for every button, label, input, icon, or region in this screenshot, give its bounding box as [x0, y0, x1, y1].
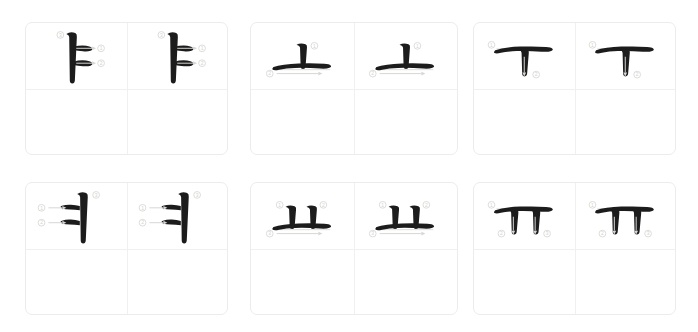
svg-text:2: 2 — [100, 61, 103, 66]
svg-text:1: 1 — [100, 46, 103, 51]
jamo-card-o[interactable]: 1 2 1 2 — [250, 22, 458, 155]
svg-text:1: 1 — [591, 43, 594, 48]
svg-text:1: 1 — [278, 203, 281, 208]
jamo-card-ya[interactable]: 1 2 3 1 2 — [25, 22, 228, 155]
jamo-card-yo[interactable]: 1 2 3 1 2 3 — [250, 182, 458, 315]
svg-text:1: 1 — [141, 206, 144, 211]
svg-text:1: 1 — [490, 43, 493, 48]
svg-text:2: 2 — [200, 61, 203, 66]
card-grid-horizontal-line — [26, 89, 227, 90]
jamo-cell-yeo-2[interactable]: 1 2 3 — [127, 183, 228, 249]
svg-text:1: 1 — [416, 44, 419, 49]
card-grid-horizontal-line — [251, 249, 457, 250]
svg-text:1: 1 — [381, 203, 384, 208]
svg-text:3: 3 — [95, 193, 98, 198]
jamo-cell-yo-2[interactable]: 1 2 3 — [354, 183, 457, 249]
jamo-cell-u-1[interactable]: 1 2 — [474, 23, 575, 89]
jamo-cell-yeo-1[interactable]: 1 2 3 — [26, 183, 127, 249]
svg-text:3: 3 — [59, 33, 62, 38]
svg-text:1: 1 — [490, 203, 493, 208]
svg-text:1: 1 — [40, 206, 43, 211]
svg-text:2: 2 — [500, 231, 503, 236]
svg-text:2: 2 — [40, 220, 43, 225]
svg-text:3: 3 — [546, 231, 549, 236]
svg-text:3: 3 — [371, 231, 374, 236]
jamo-cell-yo-1[interactable]: 1 2 3 — [251, 183, 354, 249]
jamo-card-yu[interactable]: 1 2 3 1 — [473, 182, 676, 315]
svg-text:1: 1 — [200, 46, 203, 51]
card-grid-horizontal-line — [474, 89, 675, 90]
svg-text:2: 2 — [535, 72, 538, 77]
svg-text:1: 1 — [591, 203, 594, 208]
card-grid-horizontal-line — [26, 249, 227, 250]
svg-text:3: 3 — [195, 193, 198, 198]
jamo-cell-o-1[interactable]: 1 2 — [251, 23, 354, 89]
svg-text:3: 3 — [646, 231, 649, 236]
svg-text:2: 2 — [635, 72, 638, 77]
jamo-card-u[interactable]: 1 2 1 2 — [473, 22, 676, 155]
jamo-cell-o-2[interactable]: 1 2 — [354, 23, 457, 89]
jamo-cell-yu-1[interactable]: 1 2 3 — [474, 183, 575, 249]
svg-text:2: 2 — [268, 71, 271, 76]
svg-text:1: 1 — [313, 44, 316, 49]
svg-text:2: 2 — [425, 203, 428, 208]
jamo-cell-u-2[interactable]: 1 2 — [575, 23, 676, 89]
svg-text:3: 3 — [268, 231, 271, 236]
jamo-cell-yu-2[interactable]: 1 2 3 — [575, 183, 676, 249]
jamo-cell-ya-1[interactable]: 1 2 3 — [26, 23, 127, 89]
svg-text:2: 2 — [601, 231, 604, 236]
svg-text:2: 2 — [371, 71, 374, 76]
svg-text:2: 2 — [141, 220, 144, 225]
practice-sheet: 1 2 3 1 2 — [0, 0, 698, 332]
card-grid-horizontal-line — [474, 249, 675, 250]
svg-text:2: 2 — [322, 203, 325, 208]
jamo-cell-ya-2[interactable]: 1 2 3 — [127, 23, 228, 89]
jamo-card-yeo[interactable]: 1 2 3 1 2 — [25, 182, 228, 315]
svg-text:3: 3 — [159, 33, 162, 38]
card-grid-horizontal-line — [251, 89, 457, 90]
